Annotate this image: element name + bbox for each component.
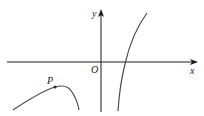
- point-p-marker: [53, 85, 56, 88]
- y-axis-label: y: [91, 8, 97, 19]
- function-graph: x y O P: [0, 0, 204, 116]
- x-axis-label: x: [189, 65, 195, 76]
- left-branch-curve: [13, 86, 79, 110]
- y-axis: [98, 9, 104, 112]
- x-axis: [7, 59, 198, 65]
- point-p-label: P: [46, 75, 53, 86]
- origin-label: O: [91, 64, 98, 75]
